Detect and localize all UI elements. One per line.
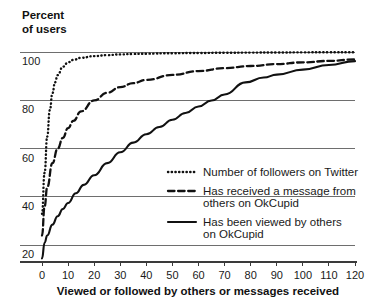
x-tick-label: 10: [62, 269, 74, 281]
x-tick-label: 110: [320, 269, 338, 281]
x-tick-label: 40: [140, 269, 152, 281]
x-tick-label: 30: [114, 269, 126, 281]
x-tick-label: 120: [346, 269, 364, 281]
y-tick-label: 20: [22, 248, 34, 260]
line-chart: 20406080100 0102030405060708090100110120…: [0, 0, 377, 301]
legend-label-2: on OkCupid: [203, 228, 264, 240]
x-tick-label: 20: [88, 269, 100, 281]
chart-container: 20406080100 0102030405060708090100110120…: [0, 0, 377, 301]
series-line-2: [42, 61, 355, 258]
legend-label-2: Has been viewed by others: [203, 216, 342, 228]
x-tick-label: 90: [271, 269, 283, 281]
series-line-1: [42, 59, 355, 235]
x-tick-label: 50: [166, 269, 178, 281]
y-axis-tick-labels: 20406080100: [22, 55, 40, 260]
legend-label-1: Has received a message from: [203, 185, 356, 197]
x-tick-label: 100: [294, 269, 312, 281]
x-tick-label: 0: [39, 269, 45, 281]
legend-label-0: Number of followers on Twitter: [203, 166, 358, 178]
y-axis-title-line2: of users: [22, 23, 67, 35]
x-axis-title: Viewed or followed by others or messages…: [57, 285, 339, 297]
y-tick-label: 40: [22, 200, 34, 212]
x-tick-label: 70: [218, 269, 230, 281]
y-tick-label: 80: [22, 103, 34, 115]
y-tick-label: 100: [22, 55, 40, 67]
x-tick-label: 60: [192, 269, 204, 281]
x-tick-label: 80: [245, 269, 257, 281]
legend: Number of followers on TwitterHas receiv…: [168, 166, 358, 240]
y-tick-label: 60: [22, 152, 34, 164]
y-axis-title-line1: Percent: [22, 9, 64, 21]
x-axis-group: 0102030405060708090100110120: [20, 262, 364, 281]
legend-label-1: others on OkCupid: [203, 197, 299, 209]
